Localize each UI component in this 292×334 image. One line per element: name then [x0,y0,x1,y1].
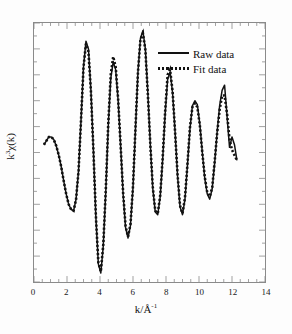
chart-figure: Raw data Fit data 02468101214 k/Å-1 k3χ(… [0,0,292,334]
x-axis-label-text: k/Å [135,303,152,315]
x-tick-label-6: 6 [123,287,143,297]
x-tick-label-0: 0 [23,287,43,297]
x-tick-label-8: 8 [156,287,176,297]
legend: Raw data Fit data [158,46,258,76]
legend-swatch-dotted-line-icon [158,64,189,73]
y-axis-label: k3χ(k) [4,114,17,178]
legend-swatch-solid-line-icon [158,49,189,58]
x-tick-label-12: 12 [223,287,243,297]
x-axis-label-exponent: -1 [151,302,157,310]
x-axis-label: k/Å-1 [0,302,292,315]
x-tick-label-2: 2 [56,287,76,297]
legend-item-raw-data: Raw data [158,46,258,61]
y-axis-label-base: k [4,154,16,160]
y-axis-label-exponent: 3 [4,151,12,155]
x-tick-label-14: 14 [256,287,276,297]
y-axis-label-rest: χ(k) [4,133,16,151]
x-tick-label-4: 4 [90,287,110,297]
legend-label-raw-data: Raw data [193,48,234,60]
x-tick-label-10: 10 [189,287,209,297]
legend-item-fit-data: Fit data [158,61,258,76]
legend-label-fit-data: Fit data [193,63,226,75]
